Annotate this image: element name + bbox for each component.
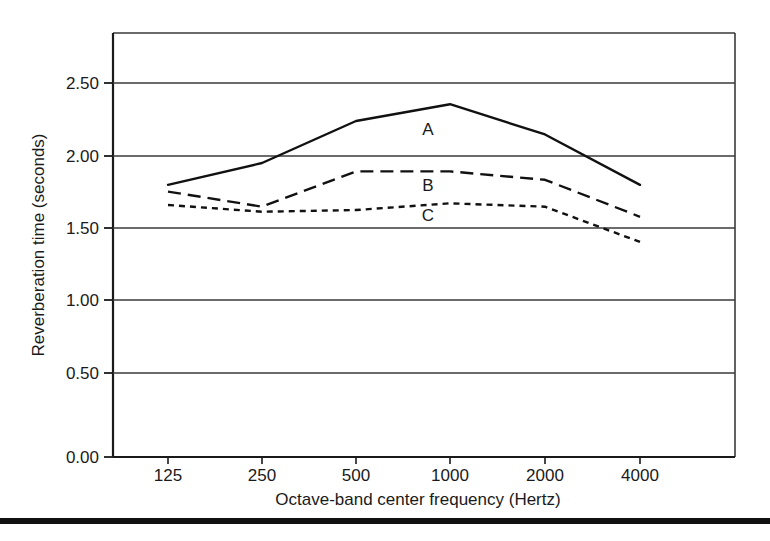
footer-rule [0, 518, 770, 524]
x-tick-label-4000: 4000 [621, 466, 659, 485]
y-axis-tick-labels: 0.00 0.50 1.00 1.50 2.00 2.50 [66, 74, 99, 467]
y-axis-title: Reverberation time (seconds) [29, 134, 48, 357]
y-tick-label-2: 1.00 [66, 291, 99, 310]
x-axis-title: Octave-band center frequency (Hertz) [275, 490, 560, 509]
series-label-c: C [422, 206, 434, 225]
plot-frame [113, 33, 735, 457]
x-tick-label-125: 125 [154, 466, 182, 485]
series-label-a: A [422, 120, 434, 139]
y-tick-label-3: 1.50 [66, 219, 99, 238]
y-tick-label-5: 2.50 [66, 74, 99, 93]
series-line-a [168, 104, 640, 185]
series-line-c [168, 203, 640, 242]
x-axis-tick-labels: 125 250 500 1000 2000 4000 [154, 466, 659, 485]
x-tick-label-250: 250 [248, 466, 276, 485]
y-tick-label-1: 0.50 [66, 364, 99, 383]
x-tick-label-1000: 1000 [431, 466, 469, 485]
x-tick-label-2000: 2000 [526, 466, 564, 485]
series-label-b: B [422, 176, 433, 195]
y-tick-label-4: 2.00 [66, 147, 99, 166]
reverberation-time-chart: 0.00 0.50 1.00 1.50 2.00 2.50 125 250 50… [0, 0, 770, 541]
y-tick-label-0: 0.00 [66, 448, 99, 467]
chart-page: 0.00 0.50 1.00 1.50 2.00 2.50 125 250 50… [0, 0, 770, 541]
y-axis-ticks [104, 83, 113, 457]
x-tick-label-500: 500 [342, 466, 370, 485]
